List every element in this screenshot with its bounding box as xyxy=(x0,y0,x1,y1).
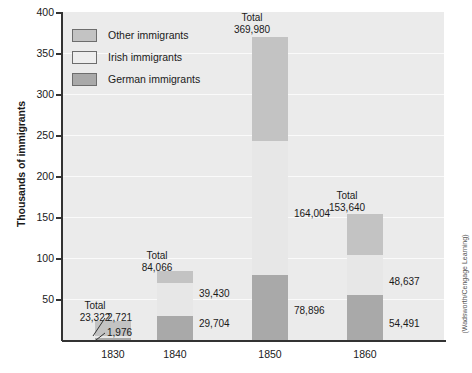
y-tick-mark-250 xyxy=(56,135,61,137)
x-tick-1850: 1850 xyxy=(230,348,310,360)
legend-swatch-german-icon xyxy=(72,73,97,86)
bar-1860-segment-other xyxy=(347,214,383,255)
legend: Other immigrants Irish immigrants German… xyxy=(72,24,200,90)
value-label-irish-1830: 2,721 xyxy=(107,312,132,324)
value-label-irish-1840: 39,430 xyxy=(199,288,230,300)
y-tick-mark-350 xyxy=(56,53,61,55)
bar-1850-segment-german xyxy=(252,275,288,340)
total-word-1830: Total xyxy=(55,300,135,312)
bar-1850-segment-other xyxy=(252,37,288,141)
x-tick-1860: 1860 xyxy=(325,348,405,360)
y-tick-300: 300 xyxy=(8,88,54,100)
publisher-credit: (Wadsworth/Cengage Learning) xyxy=(461,204,468,334)
bar-1840-segment-german xyxy=(157,316,193,340)
value-label-german-1840: 29,704 xyxy=(199,318,230,330)
y-tick-mark-150 xyxy=(56,217,61,219)
y-tick-mark-300 xyxy=(56,94,61,96)
y-axis-ticks: 400 350 300 250 200 150 100 50 xyxy=(8,0,54,373)
value-label-german-1830: 1,976 xyxy=(107,327,132,339)
y-tick-mark-200 xyxy=(56,176,61,178)
total-word-1850: Total xyxy=(212,12,292,24)
total-word-1860: Total xyxy=(307,190,387,202)
bar-1860-segment-irish xyxy=(347,255,383,295)
legend-label-other: Other immigrants xyxy=(108,29,189,41)
value-label-irish-1860: 48,637 xyxy=(389,276,420,288)
bar-1850-segment-irish xyxy=(252,141,288,276)
y-tick-350: 350 xyxy=(8,47,54,59)
bar-1860-segment-german xyxy=(347,295,383,340)
legend-item-other: Other immigrants xyxy=(72,24,200,46)
bar-1860 xyxy=(347,214,383,340)
y-tick-50: 50 xyxy=(8,293,54,305)
value-label-german-1850: 78,896 xyxy=(294,305,325,317)
immigration-bar-chart: Thousands of immigrants xyxy=(0,0,472,373)
value-label-german-1860: 54,491 xyxy=(389,318,420,330)
legend-swatch-other-icon xyxy=(72,29,97,42)
y-tick-150: 150 xyxy=(8,211,54,223)
total-word-1840: Total xyxy=(117,250,197,262)
legend-item-irish: Irish immigrants xyxy=(72,46,200,68)
bar-1850 xyxy=(252,37,288,340)
y-tick-400: 400 xyxy=(8,6,54,18)
legend-label-german: German immigrants xyxy=(108,73,200,85)
bar-1840 xyxy=(157,271,193,340)
y-tick-200: 200 xyxy=(8,170,54,182)
value-label-irish-1850: 164,004 xyxy=(294,208,330,220)
x-tick-1840: 1840 xyxy=(135,348,215,360)
y-tick-100: 100 xyxy=(8,252,54,264)
total-value-1850: 369,980 xyxy=(212,24,292,36)
total-label-1840: Total 84,066 xyxy=(117,250,197,274)
legend-item-german: German immigrants xyxy=(72,68,200,90)
total-label-1850: Total 369,980 xyxy=(212,12,292,36)
bar-1840-segment-irish xyxy=(157,283,193,315)
y-tick-250: 250 xyxy=(8,129,54,141)
legend-swatch-irish-icon xyxy=(72,51,97,64)
total-value-1840: 84,066 xyxy=(117,262,197,274)
y-axis-line xyxy=(61,12,63,341)
y-tick-mark-100 xyxy=(56,258,61,260)
y-tick-mark-400 xyxy=(56,12,61,14)
x-axis-line xyxy=(62,340,446,342)
legend-label-irish: Irish immigrants xyxy=(108,51,182,63)
